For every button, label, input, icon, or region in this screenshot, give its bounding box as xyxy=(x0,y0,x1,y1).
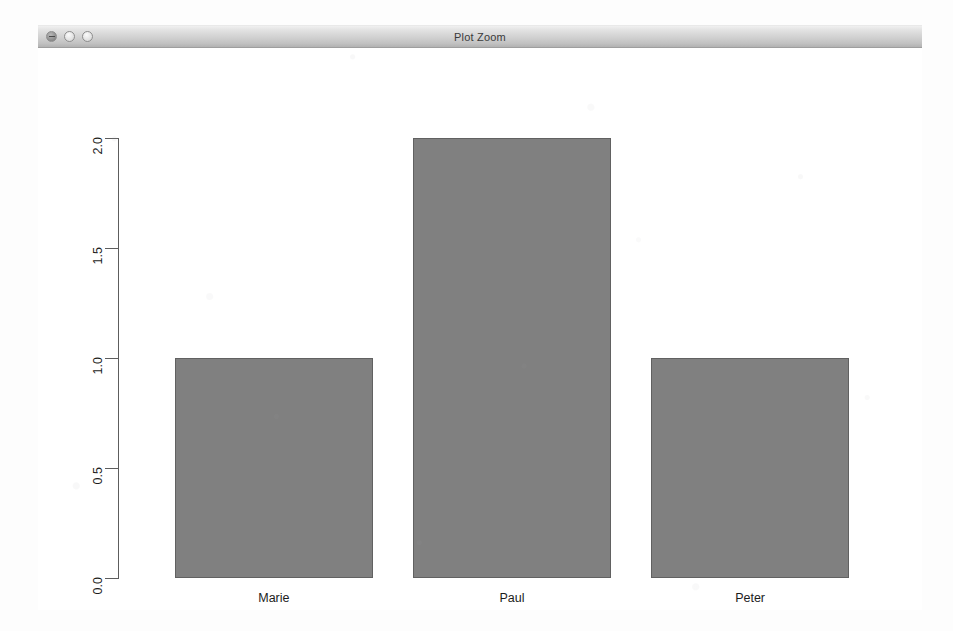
bar-marie[interactable] xyxy=(175,358,373,578)
window-titlebar[interactable]: Plot Zoom xyxy=(38,25,922,48)
window-title: Plot Zoom xyxy=(38,26,922,49)
y-tick-1.0 xyxy=(105,358,118,359)
y-tick-label-0.0: 0.0 xyxy=(91,577,105,594)
bar-paul[interactable] xyxy=(413,138,611,578)
y-tick-2.0 xyxy=(105,138,118,139)
y-tick-label-1.0: 1.0 xyxy=(91,357,105,374)
y-axis-line xyxy=(118,138,119,579)
y-tick-1.5 xyxy=(105,248,118,249)
x-label-paul: Paul xyxy=(413,591,611,605)
x-label-peter: Peter xyxy=(651,591,849,605)
plot-zoom-window: Plot Zoom 0.00.51.01.52.0 MariePaulPeter xyxy=(38,25,922,610)
y-tick-label-1.5: 1.5 xyxy=(91,247,105,264)
y-tick-0.5 xyxy=(105,468,118,469)
x-label-marie: Marie xyxy=(175,591,373,605)
y-tick-label-2.0: 2.0 xyxy=(91,137,105,154)
y-tick-0.0 xyxy=(105,578,118,579)
y-tick-label-0.5: 0.5 xyxy=(91,467,105,484)
plot-canvas: 0.00.51.01.52.0 MariePaulPeter xyxy=(38,48,922,610)
bar-peter[interactable] xyxy=(651,358,849,578)
